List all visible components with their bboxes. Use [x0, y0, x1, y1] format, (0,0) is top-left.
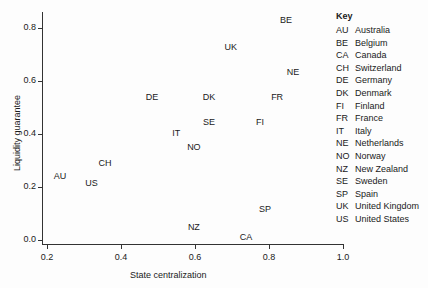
- data-point-label: US: [85, 178, 98, 188]
- legend-item: NENetherlands: [336, 137, 419, 150]
- legend-code: DK: [336, 87, 355, 100]
- legend-item: CACanada: [336, 49, 419, 62]
- legend-code: BE: [336, 37, 355, 50]
- legend-code: SP: [336, 188, 355, 201]
- legend-code: US: [336, 213, 355, 226]
- legend-code: NZ: [336, 163, 355, 176]
- x-axis-line: [42, 244, 344, 245]
- data-point-label: SE: [203, 117, 215, 127]
- x-tick-label: 0.8: [254, 252, 284, 262]
- legend-code: NO: [336, 150, 355, 163]
- legend-country-name: Denmark: [355, 88, 392, 98]
- legend-country-name: United States: [355, 214, 409, 224]
- legend-country-name: Germany: [355, 75, 392, 85]
- legend-item: USUnited States: [336, 213, 419, 226]
- y-tick-mark: [38, 134, 42, 135]
- legend-country-name: New Zealand: [355, 164, 408, 174]
- data-point-label: FI: [256, 117, 264, 127]
- data-point-label: DE: [146, 92, 159, 102]
- y-axis-line: [42, 12, 43, 244]
- legend-code: AU: [336, 24, 355, 37]
- data-point-label: NZ: [188, 222, 200, 232]
- legend-country-name: Switzerland: [355, 63, 402, 73]
- y-axis-label: Liquidity guarantee: [12, 78, 22, 188]
- data-point-label: AU: [54, 171, 67, 181]
- y-tick-mark: [38, 81, 42, 82]
- x-tick-label: 1.0: [328, 252, 358, 262]
- x-tick-mark: [269, 245, 270, 249]
- legend-item: FIFinland: [336, 100, 419, 113]
- data-point-label: CH: [99, 158, 112, 168]
- legend-code: UK: [336, 200, 355, 213]
- y-tick-mark: [38, 187, 42, 188]
- data-point-label: NE: [287, 67, 300, 77]
- legend-item: SESweden: [336, 175, 419, 188]
- legend-country-name: Finland: [355, 101, 385, 111]
- legend-item: DEGermany: [336, 74, 419, 87]
- legend-country-name: Spain: [355, 189, 378, 199]
- legend-code: CA: [336, 49, 355, 62]
- legend-code: DE: [336, 74, 355, 87]
- legend-code: FR: [336, 112, 355, 125]
- legend-item: ITItaly: [336, 125, 419, 138]
- legend-country-name: United Kingdom: [355, 201, 419, 211]
- legend-code: NE: [336, 137, 355, 150]
- legend-item: FRFrance: [336, 112, 419, 125]
- legend-items: AUAustraliaBEBelgiumCACanadaCHSwitzerlan…: [336, 24, 419, 226]
- legend-code: FI: [336, 100, 355, 113]
- y-tick-mark: [38, 240, 42, 241]
- legend-country-name: Canada: [355, 50, 387, 60]
- data-point-label: CA: [240, 232, 253, 242]
- legend-item: NONorway: [336, 150, 419, 163]
- legend-item: CHSwitzerland: [336, 62, 419, 75]
- x-tick-label: 0.2: [32, 252, 62, 262]
- data-point-label: UK: [225, 42, 238, 52]
- legend-country-name: Sweden: [355, 176, 388, 186]
- data-point-label: FR: [271, 92, 283, 102]
- legend-country-name: Italy: [355, 126, 372, 136]
- legend-country-name: Belgium: [355, 38, 388, 48]
- data-point-label: SP: [259, 204, 271, 214]
- legend-code: SE: [336, 175, 355, 188]
- legend-item: BEBelgium: [336, 37, 419, 50]
- data-point-label: NO: [187, 142, 201, 152]
- x-tick-mark: [47, 245, 48, 249]
- legend-item: NZNew Zealand: [336, 163, 419, 176]
- x-tick-label: 0.4: [106, 252, 136, 262]
- legend-code: CH: [336, 62, 355, 75]
- y-tick-mark: [38, 28, 42, 29]
- x-tick-mark: [343, 245, 344, 249]
- legend-country-name: France: [355, 113, 383, 123]
- legend-item: AUAustralia: [336, 24, 419, 37]
- data-point-label: DK: [203, 92, 216, 102]
- x-tick-mark: [195, 245, 196, 249]
- y-tick-label: 0.8: [6, 22, 36, 32]
- legend-country-name: Netherlands: [355, 138, 404, 148]
- legend-item: SPSpain: [336, 188, 419, 201]
- legend-item: DKDenmark: [336, 87, 419, 100]
- y-tick-label: 0.0: [6, 234, 36, 244]
- x-axis-label: State centralization: [130, 270, 207, 280]
- legend-country-name: Australia: [355, 25, 390, 35]
- data-point-label: IT: [172, 128, 180, 138]
- x-tick-mark: [121, 245, 122, 249]
- data-point-label: BE: [280, 15, 292, 25]
- legend-country-name: Norway: [355, 151, 386, 161]
- x-tick-label: 0.6: [180, 252, 210, 262]
- legend-title: Key: [336, 11, 419, 24]
- legend-code: IT: [336, 125, 355, 138]
- legend-item: UKUnited Kingdom: [336, 200, 419, 213]
- legend: Key AUAustraliaBEBelgiumCACanadaCHSwitze…: [336, 11, 419, 226]
